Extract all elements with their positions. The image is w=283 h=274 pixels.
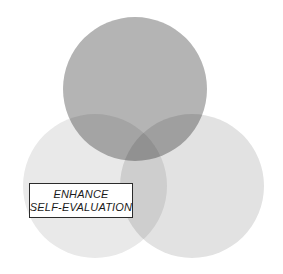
venn-diagram-canvas: ENHANCE SELF-EVALUATION xyxy=(0,0,283,274)
label-line-2: SELF-EVALUATION xyxy=(30,201,132,214)
enhance-self-evaluation-label[interactable]: ENHANCE SELF-EVALUATION xyxy=(29,183,133,218)
venn-diagram-graphic xyxy=(0,0,283,274)
label-line-1: ENHANCE xyxy=(53,188,108,201)
bottom-right-circle[interactable] xyxy=(120,114,264,258)
